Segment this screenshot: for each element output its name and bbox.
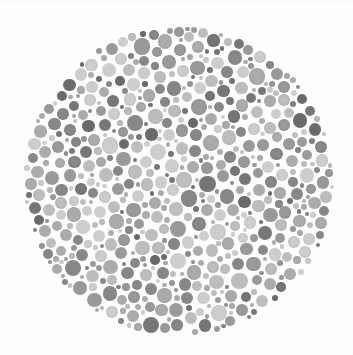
plate-dot	[239, 173, 251, 185]
ishihara-plate-figure	[0, 0, 353, 355]
plate-dot	[303, 233, 315, 245]
plate-dot	[205, 91, 215, 101]
plate-dot	[87, 293, 101, 307]
plate-dot	[43, 204, 55, 216]
plate-dot	[182, 108, 188, 114]
plate-dot	[109, 214, 123, 228]
plate-dot	[122, 88, 128, 94]
plate-dot	[88, 188, 98, 198]
plate-dot	[167, 28, 173, 34]
plate-dot	[157, 267, 169, 279]
plate-dot	[100, 278, 106, 284]
plate-dot	[272, 240, 276, 244]
plate-dot	[90, 173, 94, 177]
plate-dot	[205, 314, 209, 318]
plate-dot	[65, 260, 81, 276]
plate-dot	[224, 303, 228, 307]
plate-dot	[251, 289, 257, 295]
plate-dot	[62, 279, 68, 285]
plate-dot	[310, 212, 316, 218]
plate-dot	[247, 192, 251, 196]
plate-dot	[163, 261, 167, 265]
plate-dot	[59, 260, 63, 264]
plate-dot	[99, 87, 109, 97]
plate-dot	[118, 127, 128, 137]
plate-dot	[241, 212, 247, 218]
plate-dot	[293, 215, 305, 227]
plate-dot	[290, 169, 296, 175]
plate-dot	[180, 165, 184, 169]
plate-dot	[96, 182, 100, 186]
plate-dot	[99, 119, 111, 131]
plate-dot	[116, 285, 120, 289]
plate-dot	[214, 49, 220, 55]
plate-dot	[214, 326, 220, 332]
plate-dot	[210, 156, 214, 160]
plate-dot	[96, 265, 102, 271]
plate-dot	[211, 57, 223, 69]
plate-dot	[72, 114, 76, 118]
plate-dot	[130, 258, 140, 268]
plate-dot	[293, 256, 301, 264]
plate-dot	[89, 283, 97, 291]
plate-dot	[279, 206, 291, 218]
plate-dot	[319, 206, 329, 216]
plate-dot	[198, 28, 208, 38]
plate-dot	[250, 303, 254, 307]
plate-dot	[65, 138, 69, 142]
plate-dot	[133, 59, 139, 65]
plate-dot	[125, 226, 133, 234]
plate-dot	[151, 211, 163, 223]
plate-dot	[191, 185, 195, 189]
plate-dot	[203, 135, 219, 151]
plate-dot	[284, 268, 296, 280]
plate-dot	[152, 47, 162, 57]
plate-dot	[69, 253, 75, 259]
plate-dot	[115, 247, 127, 259]
plate-dot	[88, 72, 94, 78]
plate-dot	[28, 153, 38, 163]
plate-dot	[316, 243, 320, 247]
plate-dot	[122, 262, 126, 266]
plate-dot	[199, 176, 215, 192]
plate-dot	[283, 138, 295, 150]
plate-dot	[162, 118, 172, 128]
plate-dot	[243, 140, 255, 152]
plate-dot	[207, 195, 215, 203]
plate-dot	[43, 160, 49, 166]
plate-dot	[222, 130, 236, 144]
plate-dot	[264, 278, 276, 290]
plate-dot	[243, 228, 247, 232]
plate-dot	[229, 78, 235, 84]
plate-dot	[142, 202, 148, 208]
plate-dot	[236, 186, 244, 194]
plate-dot	[154, 164, 160, 170]
plate-dot	[64, 257, 68, 261]
plate-dot	[170, 221, 186, 237]
plate-dot	[124, 192, 128, 196]
plate-dot	[143, 263, 147, 267]
plate-dot	[75, 183, 87, 195]
plate-dot	[237, 66, 249, 78]
plate-dot	[252, 275, 262, 285]
plate-dot	[276, 282, 286, 292]
plate-dot	[206, 244, 218, 256]
plate-dot	[140, 269, 152, 281]
plate-dot	[171, 319, 183, 331]
plate-dot	[164, 217, 170, 223]
plate-dot	[236, 127, 246, 137]
plate-dot	[132, 190, 144, 202]
plate-dot	[258, 87, 266, 95]
plate-dot	[320, 191, 332, 203]
plate-dot	[99, 219, 105, 225]
plate-dot	[272, 295, 278, 301]
plate-dot	[108, 108, 120, 120]
plate-dot	[83, 160, 95, 172]
plate-dot	[143, 317, 159, 333]
plate-dot	[269, 248, 281, 260]
plate-dot	[96, 106, 106, 116]
plate-dot	[182, 236, 194, 248]
plate-dot	[247, 315, 251, 319]
plate-dot	[85, 59, 97, 71]
plate-dot	[296, 85, 300, 89]
